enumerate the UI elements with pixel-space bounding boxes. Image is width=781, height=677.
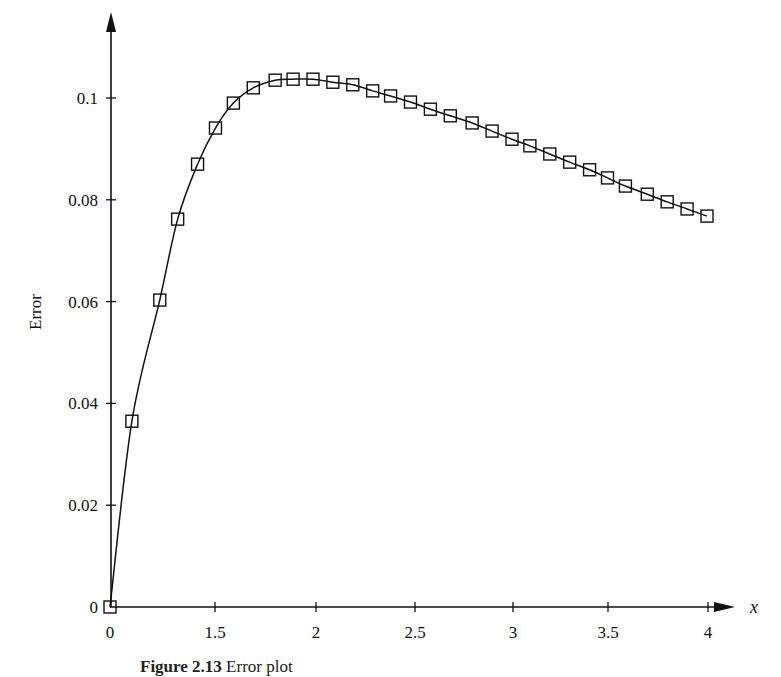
x-axis-label: x — [749, 597, 758, 617]
y-tick-label: 0.04 — [68, 394, 98, 413]
x-tick-label: 1.5 — [204, 623, 225, 642]
x-axis-arrow-icon — [714, 602, 735, 612]
data-markers — [104, 73, 713, 613]
figure-caption: Figure 2.13 Error plot — [140, 657, 293, 677]
y-tick-label: 0.08 — [68, 191, 98, 210]
x-tick-label: 3.5 — [597, 623, 618, 642]
axes — [106, 12, 735, 612]
y-axis-label: Error — [26, 294, 45, 330]
ticks: 00.020.040.060.080.101.522.533.54 — [68, 89, 713, 642]
y-axis-arrow-icon — [106, 12, 116, 32]
x-tick-label: 2 — [312, 623, 321, 642]
y-tick-label: 0.06 — [68, 293, 98, 312]
x-tick-label: 0 — [106, 623, 115, 642]
figure-caption-text: Error plot — [226, 657, 293, 676]
x-tick-label: 3 — [509, 623, 518, 642]
y-tick-label: 0.02 — [68, 496, 98, 515]
y-tick-label: 0 — [90, 598, 99, 617]
x-tick-label: 2.5 — [404, 623, 425, 642]
y-tick-label: 0.1 — [77, 89, 98, 108]
figure-number: Figure 2.13 — [140, 657, 222, 676]
x-tick-label: 4 — [704, 623, 713, 642]
